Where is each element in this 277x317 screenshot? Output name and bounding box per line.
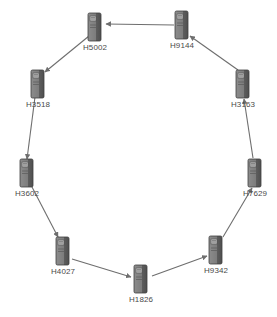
server-tower-icon [87,12,103,42]
server-tower-icon [55,236,71,266]
server-tower-icon [133,264,149,294]
node-label-h1826: H1826 [129,295,153,305]
edge-h5002-to-h3518 [45,36,89,72]
diagram-canvas: H5002H9144H3163H7629H9342H1826H4027H3602… [0,0,277,317]
node-label-h9342: H9342 [204,266,228,276]
node-label-h4027: H4027 [51,267,75,277]
server-tower-icon [174,10,190,40]
node-label-h7629: H7629 [243,189,267,199]
node-label-h3602: H3602 [15,189,39,199]
edge-h3163-to-h9144 [190,36,238,70]
server-tower-icon [208,235,224,265]
edge-h4027-to-h1826 [72,259,131,277]
node-label-h9144: H9144 [170,41,194,51]
edge-h9144-to-h5002 [106,24,174,25]
server-tower-icon [19,158,35,188]
server-tower-icon [247,158,263,188]
server-tower-icon [235,69,251,99]
edge-h1826-to-h9342 [152,256,207,276]
node-label-h3163: H3163 [231,100,255,110]
node-label-h5002: H5002 [83,43,107,53]
server-tower-icon [30,69,46,99]
node-label-h3518: H3518 [26,100,50,110]
